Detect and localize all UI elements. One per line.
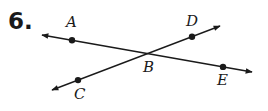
point-c-dot	[75, 77, 81, 83]
geometry-diagram: ABCDE	[0, 0, 268, 111]
point-a-dot	[69, 37, 75, 43]
point-d-label: D	[185, 12, 198, 30]
point-b-label: B	[142, 58, 154, 76]
point-d-dot	[189, 34, 195, 40]
point-e-label: E	[216, 71, 228, 89]
point-a-label: A	[64, 13, 77, 31]
point-c-label: C	[74, 85, 86, 103]
point-e-dot	[220, 64, 226, 70]
